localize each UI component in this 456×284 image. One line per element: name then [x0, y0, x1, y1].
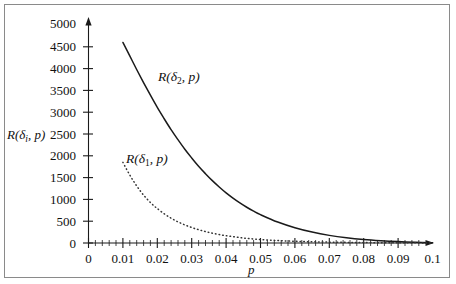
x-tick-label-001: 0.01 — [105, 252, 141, 265]
x-tick-label-008: 0.08 — [346, 252, 382, 265]
y-tick-label-4500: 4500 — [42, 40, 76, 53]
x-tick-label-0: 0 — [71, 252, 107, 265]
y-tick-label-5000: 5000 — [42, 17, 76, 30]
curve-label-delta1-suffix: , p) — [150, 151, 168, 166]
y-tick-label-4000: 4000 — [42, 62, 76, 75]
y-tick-label-0: 0 — [42, 237, 76, 250]
y-tick-label-500: 500 — [42, 215, 76, 228]
curve-label-delta1: R(δ1, p) — [126, 152, 168, 168]
chart-figure: 0 500 1000 1500 2000 2500 3000 3500 4000… — [0, 0, 456, 284]
x-tick-label-003: 0.03 — [174, 252, 210, 265]
y-axis-title: R(δi, p) — [7, 128, 45, 144]
x-tick-label-009: 0.09 — [380, 252, 416, 265]
x-tick-label-004: 0.04 — [208, 252, 244, 265]
x-tick-label-006: 0.06 — [277, 252, 313, 265]
curve-label-delta2-prefix: R( — [158, 69, 171, 84]
curve-r-delta1 — [123, 162, 433, 243]
x-axis-title: p — [248, 263, 255, 276]
y-tick-label-1500: 1500 — [42, 171, 76, 184]
y-tick-label-2500: 2500 — [42, 128, 76, 141]
curve-label-delta1-prefix: R( — [126, 151, 139, 166]
y-axis — [85, 17, 91, 243]
y-axis-title-prefix: R( — [7, 127, 19, 142]
y-tick-label-3000: 3000 — [42, 106, 76, 119]
y-axis-title-suffix: , p) — [28, 127, 45, 142]
x-tick-label-01: 0.1 — [415, 252, 451, 265]
x-tick-label-007: 0.07 — [311, 252, 347, 265]
x-tick-label-002: 0.02 — [139, 252, 175, 265]
y-tick-label-1000: 1000 — [42, 193, 76, 206]
curve-label-delta2-suffix: , p) — [182, 69, 200, 84]
curve-label-delta2: R(δ2, p) — [158, 70, 200, 86]
y-tick-label-3500: 3500 — [42, 84, 76, 97]
y-tick-label-2000: 2000 — [42, 149, 76, 162]
